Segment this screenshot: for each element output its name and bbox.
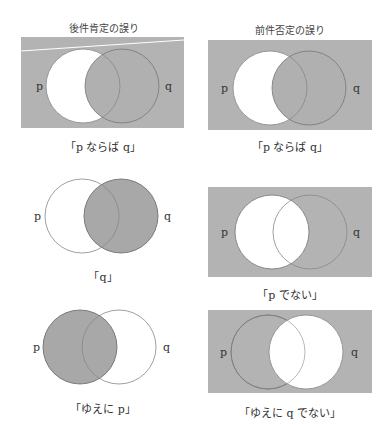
venn-right-3: p q <box>208 310 372 393</box>
label-q: q <box>353 226 360 239</box>
label-p: p <box>220 346 227 359</box>
venn-left-3: p q <box>33 310 170 384</box>
venn-diagrams: p q p q p q p q p q p q <box>0 0 385 425</box>
venn-right-1: p q <box>208 40 372 130</box>
caption-right-1: 「p ならば q」 <box>205 138 375 154</box>
label-p: p <box>221 82 228 95</box>
caption-left-1: 「p ならば q」 <box>18 138 188 154</box>
label-p: p <box>221 226 228 239</box>
venn-right-2: p q <box>208 187 372 277</box>
venn-left-1: p q <box>21 37 184 128</box>
label-q: q <box>351 346 358 359</box>
label-q: q <box>165 80 172 93</box>
label-q: q <box>353 82 360 95</box>
label-q: q <box>163 341 170 354</box>
label-p: p <box>33 341 40 354</box>
label-p: p <box>34 210 41 223</box>
caption-right-2: 「p でない」 <box>205 286 375 302</box>
caption-right-3: 「ゆえに q でない」 <box>205 404 375 420</box>
caption-left-3: 「ゆえに p」 <box>18 400 188 416</box>
caption-left-2: 「q」 <box>18 268 188 284</box>
label-p: p <box>36 80 43 93</box>
label-q: q <box>164 210 171 223</box>
venn-left-2: p q <box>34 179 171 253</box>
